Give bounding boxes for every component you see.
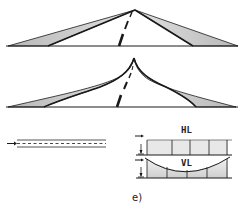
left-embankment bbox=[8, 10, 135, 46]
right-embankment-curved bbox=[134, 58, 236, 107]
road-curved-panel bbox=[6, 58, 238, 107]
vl-label: VL bbox=[181, 158, 192, 168]
right-road-edge-curved bbox=[134, 58, 196, 107]
vl-height-arrow-icon bbox=[138, 167, 144, 177]
flat-side-view bbox=[7, 140, 106, 147]
figure-caption: e) bbox=[132, 192, 142, 203]
hl-profile bbox=[135, 135, 232, 156]
vl-eye-arrow-icon bbox=[135, 159, 144, 162]
right-embankment bbox=[135, 10, 238, 46]
diagram-canvas bbox=[0, 0, 242, 213]
center-dash-line bbox=[119, 12, 132, 46]
hl-label: HL bbox=[181, 125, 192, 135]
hl-eye-arrow-icon bbox=[135, 135, 144, 138]
left-embankment-curved bbox=[8, 58, 134, 107]
direction-arrow-icon bbox=[7, 142, 17, 146]
hl-height-arrow-icon bbox=[138, 144, 144, 154]
road-straight-panel bbox=[6, 10, 238, 46]
